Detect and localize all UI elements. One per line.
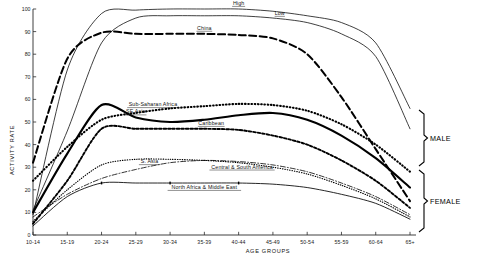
series-label: High: [233, 0, 245, 6]
x-axis-tick-label: 65+: [405, 239, 414, 245]
x-axis-tick-label: 60-64: [369, 239, 383, 245]
y-axis-tick-label: 70: [25, 74, 31, 80]
series-label-group: Sub-Saharan Africa: [129, 101, 178, 107]
chart-canvas: 010203040506070809010010-1415-1920-2425-…: [0, 0, 487, 273]
series-marker: [238, 182, 239, 185]
y-axis-tick-label: 40: [25, 142, 31, 148]
series-layer: [33, 9, 410, 226]
x-axis-tick-label: 20-24: [95, 239, 109, 245]
series-label: Sub-Saharan Africa: [129, 101, 178, 107]
y-axis-tick-label: 100: [22, 6, 31, 12]
x-axis-tick-label: 10-14: [26, 239, 40, 245]
series-label-group: High: [233, 0, 245, 6]
series-line: [33, 31, 410, 201]
x-axis-tick-label: 40-44: [232, 239, 246, 245]
x-axis-tick-label: 45-49: [266, 239, 280, 245]
series-label-group: SE Asia: [126, 108, 146, 114]
series-label: SE Asia: [126, 108, 146, 114]
female-bracket: FEMALE: [419, 170, 461, 232]
series-label: Low: [275, 10, 285, 16]
x-axis-tick-label: 25-29: [129, 239, 143, 245]
group-brackets-layer: MALEFEMALE: [419, 110, 461, 232]
series-label-group: North Africa & Middle East: [171, 184, 237, 190]
series-label-group: China: [197, 25, 212, 31]
female-bracket-shape: [419, 170, 428, 232]
y-axis-title: ACTIVITY RATE: [9, 125, 15, 175]
series-label: S. Asia: [141, 158, 159, 164]
figure-caption: [0, 264, 487, 273]
series-label-group: S. Asia: [141, 158, 159, 164]
y-axis-tick-label: 10: [25, 209, 31, 215]
x-axis-tick-label: 35-39: [197, 239, 211, 245]
series-line: [33, 16, 410, 210]
series-marker: [101, 182, 102, 185]
male-bracket: MALE: [419, 110, 451, 166]
series-labels-layer: HighLowChinaSub-Saharan AfricaSE AsiaCar…: [125, 0, 285, 190]
series-label-group: Low: [275, 10, 285, 16]
male-bracket-shape: [419, 110, 428, 166]
y-axis-tick-label: 30: [25, 164, 31, 170]
y-axis-tick-label: 50: [25, 119, 31, 125]
y-axis-tick-label: 80: [25, 51, 31, 57]
x-axis-tick-label: 30-34: [163, 239, 177, 245]
x-axis-tick-label: 15-19: [60, 239, 74, 245]
series-label-group: Caribbean: [198, 120, 224, 126]
series-label: Central & South America: [211, 164, 272, 170]
series-label-group: Central & South America: [211, 164, 272, 170]
y-axis-tick-label: 90: [25, 29, 31, 35]
x-axis-tick-label: 55-59: [334, 239, 348, 245]
series-label: China: [197, 25, 212, 31]
series-label: North Africa & Middle East: [171, 184, 237, 190]
series-label: Caribbean: [198, 120, 224, 126]
activity-rate-line-chart: 010203040506070809010010-1415-1920-2425-…: [0, 0, 487, 273]
x-axis-tick-label: 50-54: [300, 239, 314, 245]
x-axis-title: AGE GROUPS: [246, 248, 291, 254]
series-line: [33, 126, 410, 224]
y-axis-tick-label: 20: [25, 187, 31, 193]
y-axis-tick-label: 0: [28, 232, 31, 238]
y-axis-tick-label: 60: [25, 96, 31, 102]
female-bracket-text: FEMALE: [430, 197, 461, 206]
male-bracket-text: MALE: [430, 134, 451, 143]
